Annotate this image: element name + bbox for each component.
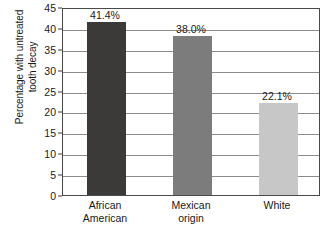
bar xyxy=(87,22,126,195)
y-axis-tick-30: 30 xyxy=(28,66,56,76)
y-axis-tick-mark xyxy=(58,175,62,176)
bar-value-label: 41.4% xyxy=(77,10,133,21)
bar xyxy=(259,103,298,195)
bar-chart: Percentage with untreated tooth decay 45… xyxy=(0,0,333,231)
bar-series xyxy=(63,9,319,195)
y-axis-tick-mark xyxy=(58,91,62,92)
y-axis-tick-mark xyxy=(58,49,62,50)
category-label-line: origin xyxy=(148,212,234,225)
y-axis-tick-mark xyxy=(58,112,62,113)
category-label: White xyxy=(234,199,320,212)
category-label-line: American xyxy=(62,212,148,225)
y-axis-tick-mark xyxy=(58,70,62,71)
y-axis-tick-45: 45 xyxy=(28,3,56,13)
category-label: AfricanAmerican xyxy=(62,199,148,224)
y-axis-tick-labels: 454035302520151050 xyxy=(28,8,56,196)
y-axis-tick-35: 35 xyxy=(28,45,56,55)
plot-area xyxy=(62,8,320,196)
category-label-line: Mexican xyxy=(148,199,234,212)
y-axis-tick-40: 40 xyxy=(28,24,56,34)
x-axis-category-labels: AfricanAmericanMexicanoriginWhite xyxy=(62,199,320,231)
y-axis-tick-15: 15 xyxy=(28,128,56,138)
y-axis-tick-0: 0 xyxy=(28,191,56,201)
y-axis-tick-mark xyxy=(58,154,62,155)
y-axis-tick-25: 25 xyxy=(28,87,56,97)
bar xyxy=(173,36,212,195)
bar-value-label: 22.1% xyxy=(249,91,305,102)
y-axis-tick-5: 5 xyxy=(28,170,56,180)
y-axis-tick-mark xyxy=(58,133,62,134)
category-label-line: African xyxy=(62,199,148,212)
bar-value-label: 38.0% xyxy=(163,24,219,35)
y-axis-title-line-1: Percentage with untreated xyxy=(14,0,27,152)
y-axis-tick-10: 10 xyxy=(28,149,56,159)
y-axis-tick-mark xyxy=(58,8,62,9)
y-axis-tick-20: 20 xyxy=(28,107,56,117)
y-axis-tick-mark xyxy=(58,28,62,29)
category-label-line: White xyxy=(234,199,320,212)
category-label: Mexicanorigin xyxy=(148,199,234,224)
y-axis-tick-mark xyxy=(58,196,62,197)
